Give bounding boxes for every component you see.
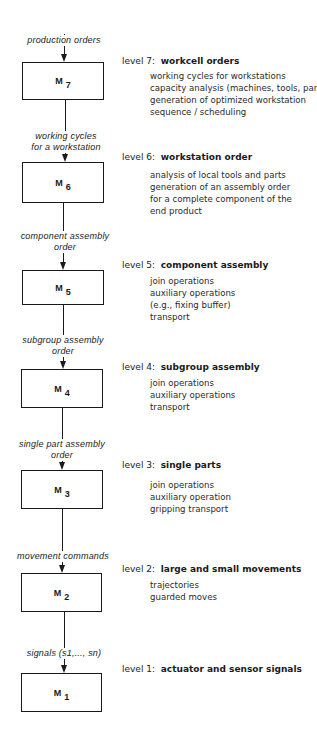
input-label-line: order — [8, 346, 118, 357]
input-label-level-3: single part assembly order — [6, 439, 118, 461]
level-3-heading: level 3: single parts — [122, 460, 221, 470]
input-label-line: single part assembly — [6, 439, 118, 450]
level-number: level 2: — [122, 564, 155, 574]
module-letter: M — [55, 76, 63, 86]
description-line: capacity analysis (machines, tools, part — [150, 82, 317, 94]
input-label-line: subgroup assembly — [8, 335, 118, 346]
level-5-description: join operations auxiliary operations (e.… — [150, 275, 235, 323]
input-label-level-6: working cycles for a workstation — [16, 131, 116, 153]
arrow-down-icon — [59, 462, 65, 470]
module-letter: M — [54, 688, 62, 698]
level-number: level 6: — [122, 152, 155, 162]
level-number: level 3: — [122, 460, 155, 470]
arrow-down-icon — [61, 54, 67, 62]
input-label-line: signals (s1,..., sn) — [14, 648, 114, 659]
level-title: large and small movements — [161, 564, 302, 574]
level-title: component assembly — [161, 260, 269, 270]
module-subscript: 5 — [66, 287, 71, 297]
arrow-down-icon — [60, 262, 66, 270]
level-title: subgroup assembly — [161, 362, 260, 372]
module-label: M2 — [22, 588, 101, 598]
module-label: M1 — [22, 688, 101, 698]
description-line: end product — [150, 205, 292, 217]
module-subscript: 6 — [66, 182, 71, 192]
description-line: transport — [150, 401, 235, 413]
description-line: generation of optimized workstation — [150, 94, 317, 106]
level-3-description: join operations auxiliary operation grip… — [150, 479, 231, 515]
description-line: analysis of local tools and parts — [150, 169, 292, 181]
module-subscript: 3 — [65, 489, 70, 499]
level-7-heading: level 7: workcell orders — [122, 56, 239, 66]
module-letter: M — [54, 588, 62, 598]
input-label-line: component assembly — [10, 231, 120, 242]
module-box-m7: M7 — [22, 62, 104, 100]
description-line: generation of an assembly order — [150, 181, 292, 193]
module-label: M4 — [22, 384, 102, 394]
module-box-m1: M1 — [21, 673, 102, 712]
connector-line — [64, 612, 65, 668]
level-1-heading: level 1: actuator and sensor signals — [122, 664, 302, 674]
input-label-line: order — [6, 450, 118, 461]
input-label-line: production orders — [14, 35, 114, 46]
level-7-description: working cycles for workstations capacity… — [150, 70, 317, 118]
module-label: M3 — [22, 485, 102, 495]
description-line: join operations — [150, 479, 231, 491]
description-line: join operations — [150, 377, 235, 389]
input-label-line: for a workstation — [16, 142, 116, 153]
description-line: auxiliary operations — [150, 287, 235, 299]
module-subscript: 1 — [64, 692, 69, 702]
input-label-level-4: subgroup assembly order — [8, 335, 118, 357]
input-label-level-7: production orders — [14, 35, 114, 46]
description-line: trajectories — [150, 579, 217, 591]
module-letter: M — [55, 178, 63, 188]
module-label: M7 — [23, 76, 103, 86]
module-box-m2: M2 — [21, 573, 102, 612]
input-label-level-1: signals (s1,..., sn) — [14, 648, 114, 659]
level-5-heading: level 5: component assembly — [122, 260, 268, 270]
description-line: sequence / scheduling — [150, 106, 317, 118]
module-subscript: 4 — [65, 388, 70, 398]
module-letter: M — [54, 485, 62, 495]
level-number: level 4: — [122, 362, 155, 372]
level-4-heading: level 4: subgroup assembly — [122, 362, 260, 372]
module-label: M6 — [23, 178, 103, 188]
input-label-line: working cycles — [16, 131, 116, 142]
description-line: working cycles for workstations — [150, 70, 317, 82]
level-number: level 5: — [122, 260, 155, 270]
input-label-line: movement commands — [8, 551, 118, 562]
description-line: for a complete component of the — [150, 193, 292, 205]
module-letter: M — [54, 384, 62, 394]
level-title: workcell orders — [161, 56, 240, 66]
description-line: transport — [150, 311, 235, 323]
level-number: level 1: — [122, 664, 155, 674]
description-line: auxiliary operation — [150, 491, 231, 503]
level-6-description: analysis of local tools and parts genera… — [150, 169, 292, 217]
module-box-m6: M6 — [22, 162, 104, 203]
level-2-description: trajectories guarded moves — [150, 579, 217, 603]
arrow-down-icon — [61, 665, 67, 673]
module-box-m4: M4 — [21, 369, 103, 408]
level-2-heading: level 2: large and small movements — [122, 564, 301, 574]
description-line: join operations — [150, 275, 235, 287]
arrow-down-icon — [60, 361, 66, 369]
level-title: workstation order — [161, 152, 252, 162]
module-box-m5: M5 — [22, 270, 104, 305]
level-4-description: join operations auxiliary operations tra… — [150, 377, 235, 413]
module-letter: M — [55, 283, 63, 293]
level-title: single parts — [161, 460, 221, 470]
module-subscript: 7 — [66, 80, 71, 90]
description-line: auxiliary operations — [150, 389, 235, 401]
module-subscript: 2 — [64, 592, 69, 602]
input-label-line: order — [10, 242, 120, 253]
description-line: gripping transport — [150, 503, 231, 515]
description-line: (e.g., fixing buffer) — [150, 299, 235, 311]
level-6-heading: level 6: workstation order — [122, 152, 252, 162]
module-label: M5 — [23, 283, 103, 293]
module-box-m3: M3 — [21, 470, 103, 509]
level-title: actuator and sensor signals — [161, 664, 302, 674]
input-label-level-2: movement commands — [8, 551, 118, 562]
input-label-level-5: component assembly order — [10, 231, 120, 253]
description-line: guarded moves — [150, 591, 217, 603]
arrow-down-icon — [59, 565, 65, 573]
arrow-down-icon — [62, 154, 68, 162]
